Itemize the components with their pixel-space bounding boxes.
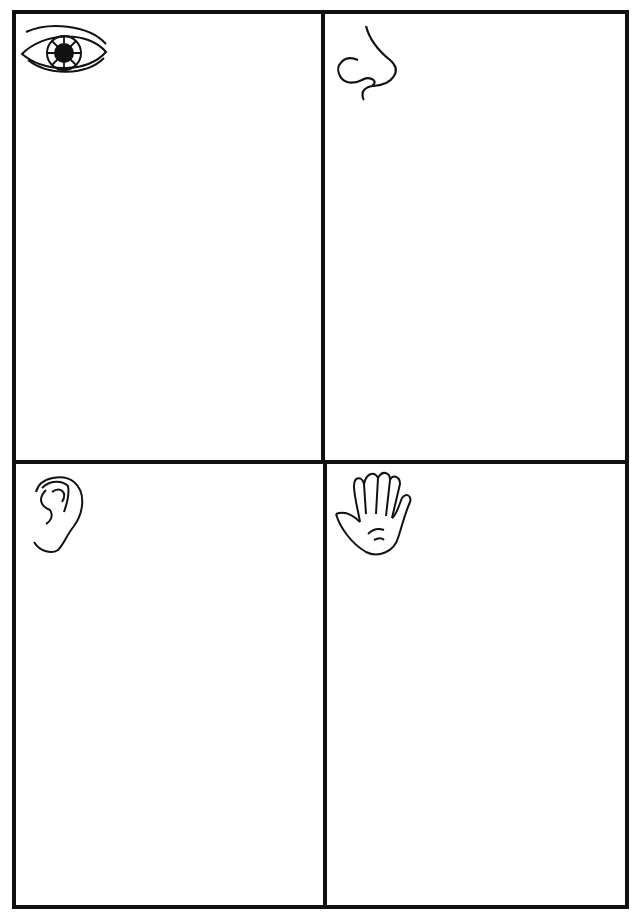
divider-horizontal xyxy=(12,460,629,464)
hand-icon xyxy=(332,466,416,558)
divider-vertical-top xyxy=(321,10,325,464)
eye-icon xyxy=(18,22,114,80)
border-bottom xyxy=(12,905,629,909)
ear-icon xyxy=(30,472,90,556)
nose-icon xyxy=(330,22,410,102)
divider-vertical-bottom xyxy=(323,460,327,909)
